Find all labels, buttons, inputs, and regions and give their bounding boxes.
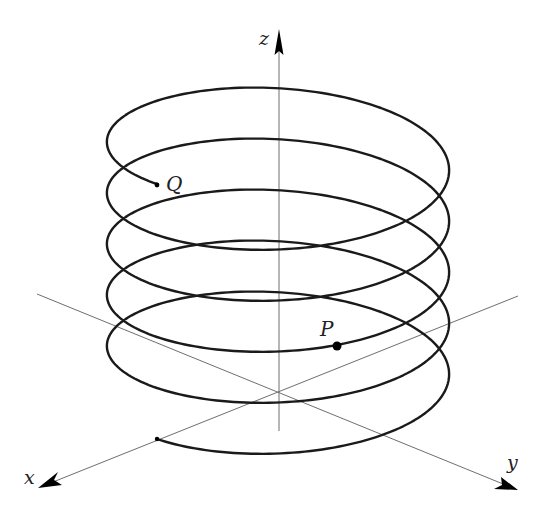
y-axis	[37, 294, 508, 486]
helix-curve	[107, 88, 449, 454]
x-axis-label: x	[24, 466, 35, 488]
point-p-dot	[333, 342, 342, 351]
y-arrow-icon	[494, 477, 518, 490]
point-q-label: Q	[166, 172, 182, 196]
y-axis-label: y	[506, 451, 518, 473]
axes	[37, 50, 518, 486]
z-axis-label: z	[258, 27, 270, 49]
helix-start-dot	[155, 437, 159, 441]
point-p-label: P	[319, 317, 334, 341]
point-q-dot	[155, 183, 160, 188]
helix-diagram: z x y Q P	[0, 0, 548, 522]
